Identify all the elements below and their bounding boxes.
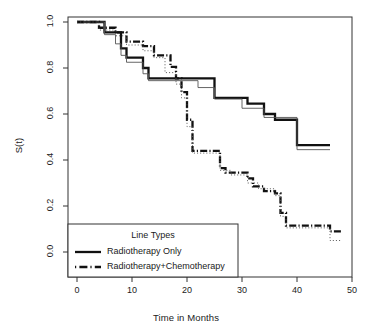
x-tick-label: 0 (65, 285, 89, 295)
x-tick-label: 40 (285, 285, 309, 295)
x-tick-label: 30 (230, 285, 254, 295)
x-tick-label: 50 (340, 285, 364, 295)
y-tick-label: 0.8 (45, 54, 55, 80)
x-axis-title: Time in Months (0, 312, 372, 323)
series-line (77, 22, 341, 241)
x-tick-label: 20 (175, 285, 199, 295)
series-line (77, 22, 330, 150)
y-tick-label: 0.0 (45, 238, 55, 264)
series-line (77, 22, 330, 145)
y-tick-label: 0.4 (45, 146, 55, 172)
survival-chart: Time in Months S(t) 01020304050 0.00.20.… (0, 0, 372, 335)
y-tick-label: 0.6 (45, 100, 55, 126)
legend-title: Line Types (68, 230, 238, 240)
y-tick-label: 0.2 (45, 192, 55, 218)
y-axis-title: S(t) (13, 116, 24, 176)
legend-item-label: Radiotherapy Only (107, 246, 182, 256)
x-tick-label: 10 (120, 285, 144, 295)
y-tick-label: 1.0 (45, 8, 55, 34)
legend-item-label: Radiotherapy+Chemotherapy (107, 261, 225, 271)
series-line (77, 22, 341, 231)
